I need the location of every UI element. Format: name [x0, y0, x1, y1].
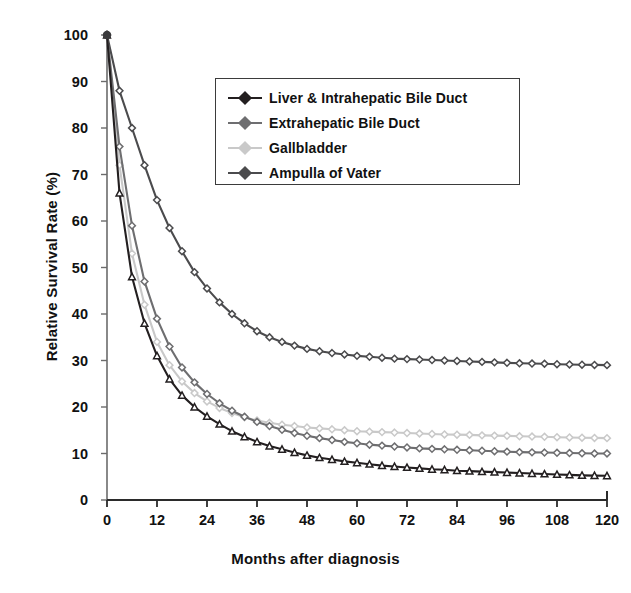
data-point-marker	[379, 462, 386, 468]
data-point-marker	[554, 434, 561, 441]
data-point-marker	[441, 357, 448, 364]
data-point-marker	[154, 197, 161, 204]
legend-marker-icon	[228, 142, 262, 154]
y-tick-label: 40	[40, 306, 88, 322]
data-point-marker	[604, 450, 611, 457]
data-point-marker	[341, 438, 348, 445]
data-point-marker	[454, 467, 461, 473]
data-point-marker	[504, 448, 511, 455]
y-tick-label: 20	[40, 399, 88, 415]
data-point-marker	[604, 472, 611, 478]
x-tick-label: 0	[103, 512, 111, 528]
data-point-marker	[316, 454, 323, 460]
data-point-marker	[491, 359, 498, 366]
data-point-marker	[404, 444, 411, 451]
data-point-marker	[504, 432, 511, 439]
x-tick-label: 48	[299, 512, 315, 528]
data-point-marker	[291, 423, 298, 430]
data-point-marker	[391, 443, 398, 450]
data-point-marker	[141, 320, 148, 326]
data-point-marker	[341, 427, 348, 434]
data-point-marker	[541, 433, 548, 440]
data-point-marker	[304, 452, 311, 458]
legend-item-label: Gallbladder	[269, 140, 347, 156]
legend-item[interactable]: Gallbladder	[228, 138, 347, 158]
data-point-marker	[479, 358, 486, 365]
legend-item[interactable]: Extrahepatic Bile Duct	[228, 113, 420, 133]
y-tick-label: 70	[40, 167, 88, 183]
legend: Liver & Intrahepatic Bile DuctExtrahepat…	[215, 78, 520, 185]
data-point-marker	[341, 458, 348, 464]
survival-chart: Relative Survival Rate (%) Months after …	[0, 0, 631, 593]
data-point-marker	[566, 361, 573, 368]
data-point-marker	[416, 465, 423, 471]
data-point-marker	[241, 433, 248, 439]
data-point-marker	[429, 357, 436, 364]
data-point-marker	[304, 345, 311, 352]
data-point-marker	[329, 350, 336, 357]
data-point-marker	[529, 433, 536, 440]
data-point-marker	[329, 456, 336, 462]
data-point-marker	[429, 445, 436, 452]
data-point-marker	[391, 355, 398, 362]
data-point-marker	[566, 471, 573, 477]
x-tick-label: 36	[249, 512, 265, 528]
data-point-marker	[541, 471, 548, 477]
data-point-marker	[604, 435, 611, 442]
data-point-marker	[354, 440, 361, 447]
data-point-marker	[516, 470, 523, 476]
legend-item[interactable]: Ampulla of Vater	[228, 163, 381, 183]
data-point-marker	[116, 190, 123, 196]
data-point-marker	[379, 354, 386, 361]
data-point-marker	[141, 162, 148, 169]
data-point-marker	[141, 301, 148, 308]
data-point-marker	[516, 433, 523, 440]
data-point-marker	[454, 358, 461, 365]
data-point-marker	[291, 430, 298, 437]
data-point-marker	[266, 443, 273, 449]
data-point-marker	[566, 434, 573, 441]
data-point-marker	[116, 87, 123, 94]
data-point-marker	[154, 315, 161, 322]
data-point-marker	[591, 450, 598, 457]
x-tick-label: 24	[199, 512, 215, 528]
data-point-marker	[316, 435, 323, 442]
x-tick-label: 72	[399, 512, 415, 528]
data-point-marker	[541, 360, 548, 367]
data-point-marker	[329, 437, 336, 444]
data-point-marker	[279, 426, 286, 433]
data-point-marker	[516, 360, 523, 367]
y-tick-label: 80	[40, 120, 88, 136]
data-point-marker	[441, 446, 448, 453]
data-point-marker	[366, 428, 373, 435]
data-point-marker	[291, 342, 298, 349]
data-point-marker	[254, 438, 261, 444]
data-point-marker	[316, 348, 323, 355]
data-point-marker	[454, 446, 461, 453]
data-point-marker	[266, 334, 273, 341]
data-point-marker	[604, 362, 611, 369]
data-point-marker	[454, 431, 461, 438]
data-point-marker	[579, 472, 586, 478]
legend-marker-icon	[228, 167, 262, 179]
data-point-marker	[416, 445, 423, 452]
data-point-marker	[541, 449, 548, 456]
data-point-marker	[441, 466, 448, 472]
legend-item[interactable]: Liver & Intrahepatic Bile Duct	[228, 88, 467, 108]
legend-marker-icon	[228, 92, 262, 104]
data-point-marker	[529, 449, 536, 456]
x-tick-label: 12	[149, 512, 165, 528]
origin-point-marker	[103, 31, 111, 39]
y-tick-label: 10	[40, 446, 88, 462]
data-point-marker	[504, 359, 511, 366]
data-point-marker	[579, 434, 586, 441]
data-point-marker	[416, 356, 423, 363]
y-tick-label: 100	[40, 27, 88, 43]
data-point-marker	[479, 447, 486, 454]
x-tick-label: 108	[545, 512, 569, 528]
data-point-marker	[491, 469, 498, 475]
data-point-marker	[529, 360, 536, 367]
x-tick-label: 120	[595, 512, 619, 528]
data-point-marker	[466, 447, 473, 454]
data-point-marker	[404, 430, 411, 437]
